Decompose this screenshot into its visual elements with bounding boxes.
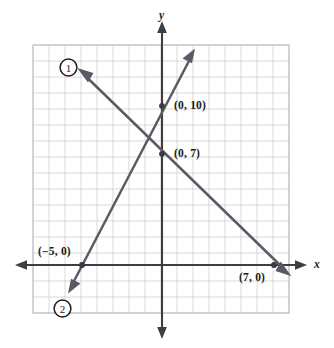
y-axis bbox=[157, 21, 167, 339]
series-marker-circles bbox=[54, 59, 77, 317]
x-axis-arrow-right bbox=[295, 260, 307, 270]
graph-canvas bbox=[0, 0, 334, 348]
y-axis-arrow-up bbox=[157, 21, 167, 33]
point-dot-0-7 bbox=[159, 151, 165, 157]
label-point-neg5-0: (−5, 0) bbox=[38, 246, 71, 258]
marked-points bbox=[79, 103, 277, 268]
point-dot-neg5-0 bbox=[79, 262, 85, 268]
line-2 bbox=[68, 49, 195, 294]
point-dot-7-0 bbox=[271, 262, 277, 268]
x-axis-arrow-left bbox=[15, 260, 27, 270]
label-point-0-7: (0, 7) bbox=[174, 148, 200, 160]
series-marker-label-two: 2 bbox=[55, 304, 71, 315]
label-point-0-10: (0, 10) bbox=[174, 100, 206, 112]
y-axis-arrow-down bbox=[157, 327, 167, 339]
label-point-7-0: (7, 0) bbox=[239, 272, 265, 284]
point-dot-0-10 bbox=[159, 103, 165, 109]
x-axis-label: x bbox=[314, 259, 320, 271]
y-axis-label: y bbox=[159, 10, 164, 22]
coordinate-plane-figure: (0, 10) (0, 7) (−5, 0) (7, 0) x y 1 2 bbox=[0, 0, 334, 348]
series-marker-label-one: 1 bbox=[61, 63, 77, 74]
